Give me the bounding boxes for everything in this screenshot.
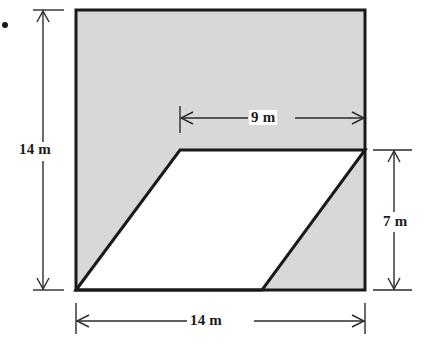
top-parallelogram-width-dimension-label: 9 m [249, 110, 277, 125]
figure-canvas [0, 0, 429, 352]
geometry-figure: 14 m 14 m 9 m 7 m [0, 0, 429, 352]
bottom-width-dimension-label: 14 m [188, 313, 224, 328]
left-height-dimension-label: 14 m [17, 142, 53, 157]
right-height-dimension-label: 7 m [381, 214, 409, 229]
bullet-marker [2, 22, 8, 28]
